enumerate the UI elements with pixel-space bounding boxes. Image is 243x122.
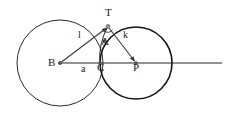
point-label-B: B xyxy=(48,57,55,68)
point-marker-T xyxy=(106,24,111,29)
point-marker-B xyxy=(58,61,62,65)
segment-label-a: a xyxy=(81,64,85,74)
point-label-C: C xyxy=(97,62,104,73)
segment-label-k: k xyxy=(123,30,128,40)
point-label-T: T xyxy=(105,7,112,18)
point-label-A: A xyxy=(101,36,109,47)
geometry-canvas xyxy=(0,0,243,122)
segment-label-l: l xyxy=(78,30,81,40)
geometry-diagram: B C P T A l k a xyxy=(0,0,243,122)
segment-T-to-P xyxy=(109,28,135,61)
point-label-P: P xyxy=(133,62,139,73)
